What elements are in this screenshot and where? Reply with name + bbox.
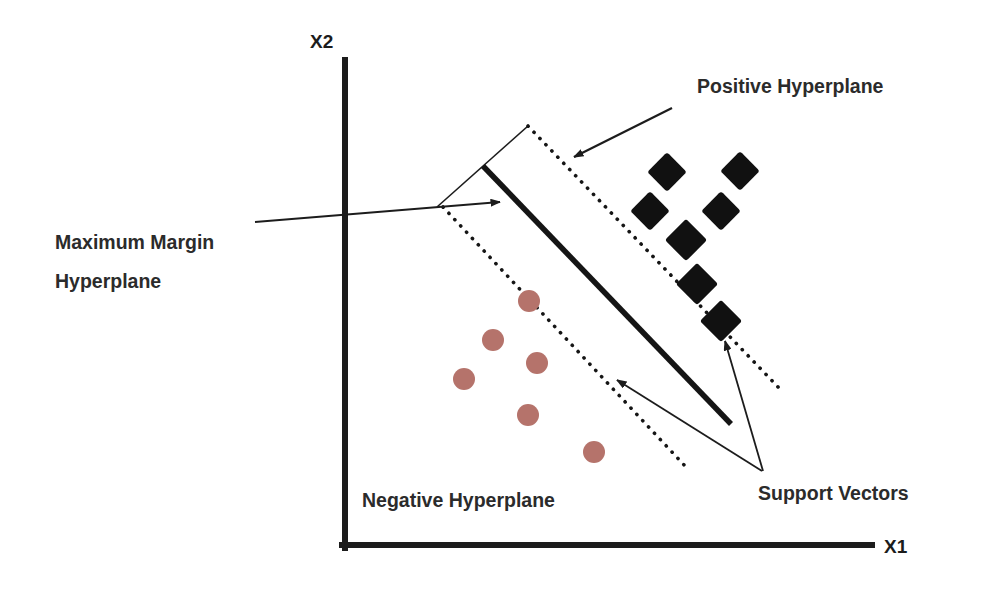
positive-hyperplane-label: Positive Hyperplane: [697, 75, 884, 97]
positive-hyperplane-arrow: [574, 108, 672, 157]
maximum-margin-label-line1: Maximum Margin: [55, 231, 214, 253]
data-point-positive: [720, 151, 760, 191]
data-point-positive: [630, 191, 670, 231]
data-point-negative: [482, 329, 504, 351]
negative-hyperplane-label: Negative Hyperplane: [362, 489, 555, 511]
svm-diagram-canvas: X2 X1: [0, 0, 982, 591]
maximum-margin-label-line2: Hyperplane: [55, 270, 161, 292]
negative-class-points: [453, 290, 605, 463]
positive-class-points: [630, 151, 760, 342]
data-point-positive: [701, 191, 741, 231]
data-point-negative: [583, 441, 605, 463]
data-point-negative: [518, 290, 540, 312]
x-axis-label: X1: [884, 536, 908, 557]
axis-group: [342, 60, 872, 548]
data-point-positive: [700, 300, 742, 342]
data-point-positive: [676, 263, 718, 305]
maximum-margin-arrow: [255, 202, 500, 222]
support-vectors-label: Support Vectors: [758, 482, 909, 504]
y-axis-label: X2: [310, 31, 333, 52]
svm-diagram-svg: X2 X1: [0, 0, 982, 591]
data-point-positive: [647, 152, 687, 192]
data-point-negative: [526, 352, 548, 374]
data-point-negative: [453, 368, 475, 390]
data-point-negative: [517, 404, 539, 426]
data-point-positive: [665, 219, 707, 261]
